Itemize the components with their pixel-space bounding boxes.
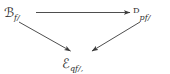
node-e-subscript: qf/ (70, 64, 81, 73)
node-d-symbol: ᴰ (133, 5, 140, 20)
arrow-d-to-e (92, 22, 140, 51)
node-object-d: ᴰpf/ (133, 4, 150, 20)
node-e-tail: , (81, 64, 84, 73)
node-object-c: ℬf/ (4, 4, 20, 20)
arrow-c-to-e (19, 22, 71, 51)
commutative-diagram: ℬf/ ᴰpf/ ℰqf/, (0, 0, 170, 74)
node-c-subscript: f/ (14, 13, 20, 22)
node-object-e: ℰqf/, (62, 55, 83, 71)
node-d-subscript: pf/ (140, 13, 151, 22)
node-c-symbol: ℬ (4, 5, 14, 20)
node-e-symbol: ℰ (62, 56, 70, 71)
